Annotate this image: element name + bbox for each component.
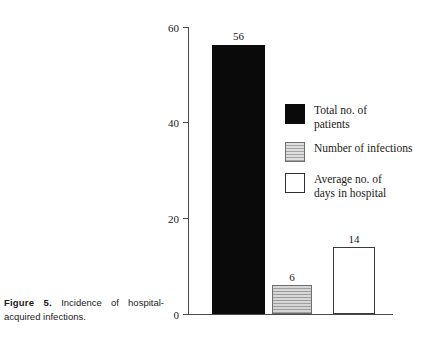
legend-swatch-gray-hatched-icon (285, 142, 305, 162)
legend-swatch-solid-black-icon (285, 104, 305, 124)
legend-item-average-days-in-hospital: Average no. of days in hospital (285, 173, 440, 200)
legend-label-total-patients: Total no. of patients (314, 104, 367, 131)
y-tick-20: 20 (183, 218, 188, 219)
y-axis-line (188, 27, 189, 315)
legend-label-number-of-infections: Number of infections (314, 142, 412, 156)
bar-chart: 0 20 40 60 56 6 14 Total no. of patients (0, 0, 443, 346)
chart-legend: Total no. of patients Number of infectio… (285, 104, 440, 211)
bar-value-average-days-in-hospital: 14 (349, 233, 360, 245)
bar-total-patients: 56 (212, 45, 265, 314)
y-tick-label-0: 0 (174, 309, 180, 321)
legend-item-number-of-infections: Number of infections (285, 142, 440, 162)
y-tick-label-40: 40 (168, 117, 179, 129)
legend-swatch-white-outline-icon (285, 173, 305, 193)
legend-label-average-days-in-hospital: Average no. of days in hospital (314, 173, 386, 200)
bar-value-total-patients: 56 (233, 30, 244, 42)
legend-item-total-patients: Total no. of patients (285, 104, 440, 131)
x-axis-line (188, 314, 393, 315)
y-tick-0: 0 (183, 314, 188, 315)
bar-value-number-of-infections: 6 (289, 271, 295, 283)
y-tick-label-60: 60 (168, 22, 179, 34)
bar-number-of-infections: 6 (272, 285, 312, 314)
y-tick-60: 60 (183, 27, 188, 28)
bar-average-days-in-hospital: 14 (333, 247, 375, 314)
y-tick-label-20: 20 (168, 213, 179, 225)
y-tick-40: 40 (183, 122, 188, 123)
